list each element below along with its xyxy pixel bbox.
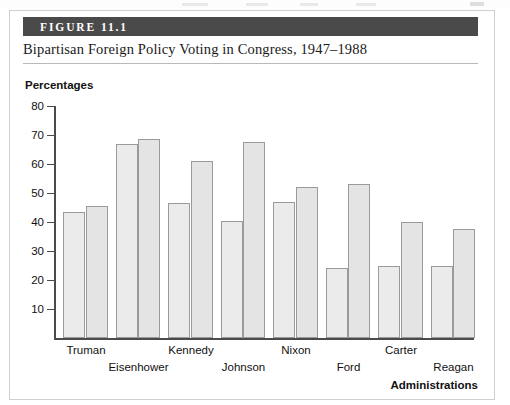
x-axis-category-label: Reagan (433, 361, 473, 373)
chart-plot-area: Percentages 1020304050607080 TrumanEisen… (10, 11, 494, 399)
bar (453, 229, 475, 338)
y-axis-tick (47, 135, 54, 136)
bar (296, 187, 318, 338)
bar (138, 139, 160, 338)
y-axis-line (54, 106, 56, 339)
bar (221, 221, 243, 338)
y-axis-tick-label: 40 (31, 216, 44, 228)
x-axis-category-label: Johnson (222, 361, 265, 373)
y-axis-tick (47, 164, 54, 165)
x-axis-line (54, 338, 474, 340)
bar (431, 266, 453, 339)
y-axis-tick-label: 80 (31, 100, 44, 112)
x-axis-category-label: Nixon (281, 344, 310, 356)
y-axis-tick (47, 309, 54, 310)
bar (116, 144, 138, 338)
x-axis-category-label: Truman (66, 344, 105, 356)
x-axis-category-label: Eisenhower (108, 361, 168, 373)
x-axis-category-label: Ford (337, 361, 361, 373)
y-axis-tick-label: 20 (31, 274, 44, 286)
y-axis-tick-label: 10 (31, 303, 44, 315)
bar (348, 184, 370, 338)
y-axis-tick (47, 280, 54, 281)
y-axis-tick (47, 106, 54, 107)
bar (326, 268, 348, 338)
bar (168, 203, 190, 338)
x-axis-title: Administrations (390, 379, 478, 391)
bar (401, 222, 423, 338)
x-axis-category-label: Carter (385, 344, 417, 356)
y-axis-tick (47, 193, 54, 194)
bar (191, 161, 213, 338)
y-axis-title: Percentages (25, 79, 93, 91)
y-axis-tick-label: 30 (31, 245, 44, 257)
bar (86, 206, 108, 338)
bar (273, 202, 295, 338)
y-axis-tick-label: 70 (31, 129, 44, 141)
y-axis-tick-label: 60 (31, 158, 44, 170)
y-axis-tick (47, 251, 54, 252)
x-axis-category-label: Kennedy (168, 344, 213, 356)
chart-axes: 1020304050607080 (54, 99, 474, 339)
figure-card: FIGURE 11.1 Bipartisan Foreign Policy Vo… (9, 10, 495, 400)
bar (63, 212, 85, 338)
y-axis-tick (47, 222, 54, 223)
bar (243, 142, 265, 338)
scan-artifact-strip (0, 0, 510, 9)
bar (378, 266, 400, 339)
y-axis-tick-label: 50 (31, 187, 44, 199)
